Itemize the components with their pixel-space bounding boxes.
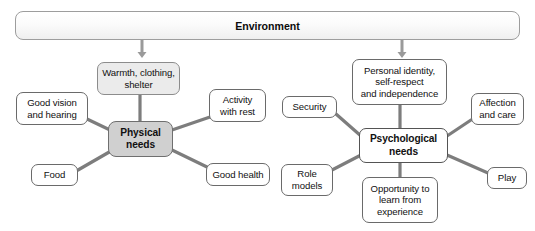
arrow-to-physical-cluster-head [138, 52, 147, 58]
node-warmth-label: Warmth, clothing,shelter [102, 67, 175, 90]
connector-psych-play [447, 155, 488, 173]
node-security[interactable]: Security [282, 96, 337, 118]
connector-psych-affection [447, 120, 471, 136]
environment-banner: Environment [15, 11, 520, 40]
node-good-vision-and-hearing[interactable]: Good visionand hearing [16, 92, 88, 125]
node-personal-identity[interactable]: Personal identity,self-respectand indepe… [352, 59, 447, 105]
node-role-models[interactable]: Rolemodels [281, 164, 333, 196]
node-good-health-label: Good health [212, 169, 263, 181]
arrow-to-physical-cluster [138, 40, 147, 58]
node-food[interactable]: Food [31, 164, 78, 186]
connector-physical-activity [172, 117, 210, 130]
arrow-to-psychological-cluster [398, 40, 407, 58]
node-food-label: Food [44, 169, 65, 181]
node-center-physical-label: Physicalneeds [120, 127, 161, 152]
node-good-vision-and-hearing-label: Good visionand hearing [27, 97, 77, 120]
node-affection-and-care-label: Affectionand care [479, 97, 516, 120]
node-activity-with-rest[interactable]: Activitywith rest [209, 89, 266, 122]
connector-psych-security [336, 114, 361, 136]
node-activity-with-rest-label: Activitywith rest [220, 94, 255, 117]
node-opportunity-to-learn[interactable]: Opportunity tolearn fromexperience [362, 177, 438, 223]
node-opportunity-to-learn-label: Opportunity tolearn fromexperience [371, 183, 430, 218]
environment-banner-label: Environment [235, 20, 300, 32]
node-affection-and-care[interactable]: Affectionand care [471, 93, 524, 125]
node-role-models-label: Rolemodels [292, 168, 322, 191]
connector-psych-role-models [332, 155, 361, 170]
connector-physical-good-vision [87, 119, 110, 130]
connector-physical-good-health [172, 150, 207, 167]
arrow-to-psychological-cluster-head [398, 52, 407, 58]
node-center-psychological-label: Psychologicalneeds [370, 133, 437, 158]
node-center-physical[interactable]: Physicalneeds [108, 121, 173, 157]
node-security-label: Security [293, 101, 327, 113]
node-play-label: Play [498, 172, 516, 184]
node-good-health[interactable]: Good health [206, 163, 270, 186]
node-warmth[interactable]: Warmth, clothing,shelter [97, 62, 180, 95]
node-personal-identity-label: Personal identity,self-respectand indepe… [361, 65, 438, 100]
node-center-psychological[interactable]: Psychologicalneeds [359, 128, 448, 163]
diagram-canvas: Environment PhysicalneedsWarmth, clothin… [0, 0, 535, 231]
connector-physical-food [78, 151, 111, 170]
node-play[interactable]: Play [487, 167, 527, 189]
